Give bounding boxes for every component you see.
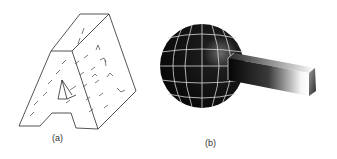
letter-a-wireframe [0,0,150,135]
sphere-with-bar [150,0,337,135]
panel-b-label: (b) [205,138,216,148]
panel-a-label: (a) [52,133,63,143]
